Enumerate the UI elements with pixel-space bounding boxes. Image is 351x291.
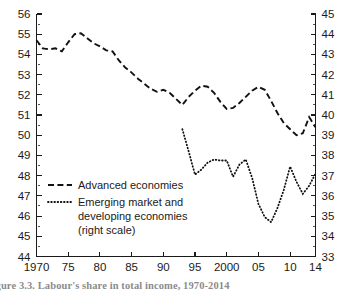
x-tick-label: 14: [309, 261, 322, 273]
left-tick-label: 53: [18, 69, 31, 81]
right-tick-label: 43: [322, 48, 335, 60]
x-tick-label: 05: [252, 261, 265, 273]
right-tick-label: 45: [322, 8, 335, 20]
chart-background: [0, 0, 351, 291]
x-tick-label: 80: [94, 261, 107, 273]
figure-container: 44454647484950515253545556 3334353637383…: [0, 0, 351, 291]
right-tick-label: 33: [322, 251, 335, 263]
left-tick-label: 51: [18, 109, 31, 121]
right-tick-label: 39: [322, 129, 335, 141]
left-tick-label: 48: [18, 170, 31, 182]
x-tick-label: 10: [284, 261, 297, 273]
right-tick-label: 44: [322, 28, 335, 40]
x-tick-label: 75: [62, 261, 75, 273]
left-tick-label: 45: [18, 230, 31, 242]
left-tick-label: 55: [18, 28, 31, 40]
left-tick-label: 46: [18, 210, 31, 222]
legend-label-1: Emerging market and: [78, 196, 183, 208]
right-tick-label: 40: [322, 109, 335, 121]
right-tick-label: 42: [322, 69, 335, 81]
x-tick-label: 90: [157, 261, 170, 273]
figure-caption: Figure 3.3. Labour's share in total inco…: [0, 280, 351, 291]
x-tick-label: 1970: [24, 261, 50, 273]
right-tick-label: 36: [322, 190, 335, 202]
right-tick-label: 41: [322, 89, 335, 101]
x-tick-label: 85: [125, 261, 138, 273]
left-tick-label: 47: [18, 190, 31, 202]
left-tick-label: 50: [18, 129, 31, 141]
left-tick-label: 56: [18, 8, 31, 20]
legend-label-0: Advanced economies: [78, 179, 184, 191]
left-tick-label: 52: [18, 89, 31, 101]
x-tick-label: 2000: [214, 261, 240, 273]
left-tick-label: 54: [18, 48, 31, 60]
legend-label-2: developing economies: [78, 210, 188, 222]
labour-share-line-chart: 44454647484950515253545556 3334353637383…: [0, 0, 351, 291]
x-tick-label: 95: [189, 261, 202, 273]
right-tick-label: 37: [322, 170, 335, 182]
legend-label-3: (right scale): [78, 224, 135, 236]
right-tick-label: 35: [322, 210, 335, 222]
left-tick-label: 49: [18, 149, 31, 161]
right-tick-label: 38: [322, 149, 335, 161]
right-tick-label: 34: [322, 230, 335, 242]
